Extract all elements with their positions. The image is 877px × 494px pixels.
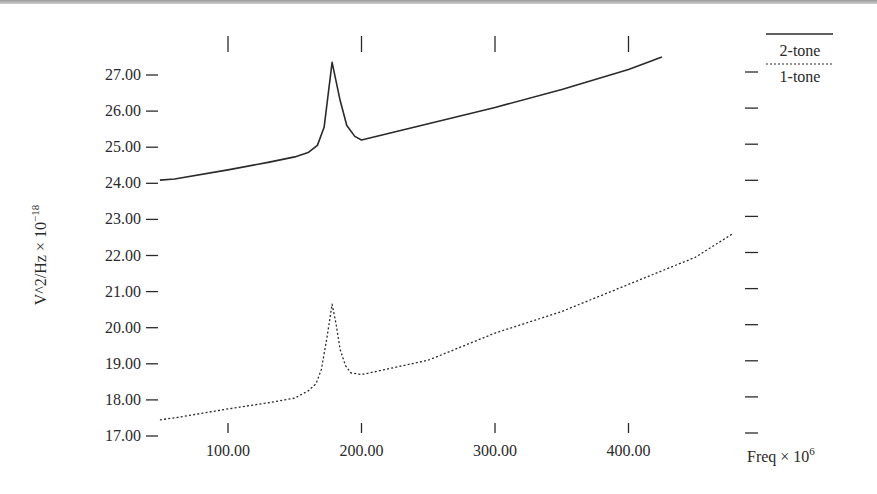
x-axis-title-exponent: 6	[809, 445, 815, 457]
y-tick-label: 21.00	[105, 283, 141, 300]
y-tick-label: 23.00	[105, 210, 141, 227]
x-axis-bottom: 100.00200.00300.00400.00	[206, 423, 651, 459]
plot-area	[160, 57, 733, 420]
y-tick-label: 26.00	[105, 102, 141, 119]
y-tick-label: 19.00	[105, 355, 141, 372]
x-tick-label: 400.00	[607, 442, 651, 459]
y-axis-title-base: V^2/Hz × 10	[32, 222, 49, 305]
y-tick-label: 20.00	[105, 319, 141, 336]
x-tick-label: 100.00	[206, 442, 250, 459]
y-tick-label: 24.00	[105, 174, 141, 191]
x-axis-title-base: Freq × 10	[747, 448, 809, 466]
psd-chart: 17.0018.0019.0020.0021.0022.0023.0024.00…	[0, 0, 877, 494]
y-tick-label: 17.00	[105, 427, 141, 444]
y-axis-right	[745, 72, 758, 433]
y-axis-title-exponent: −18	[29, 204, 41, 222]
x-axis-top	[228, 36, 629, 52]
x-tick-label: 200.00	[340, 442, 384, 459]
y-tick-label: 22.00	[105, 247, 141, 264]
legend-label-2-tone: 2-tone	[780, 42, 821, 59]
x-axis-title: Freq × 106	[747, 445, 815, 466]
legend-label-1-tone: 1-tone	[780, 68, 821, 85]
svg-text:Freq × 106: Freq × 106	[747, 445, 815, 466]
legend: 2-tone 1-tone	[766, 34, 833, 85]
y-tick-label: 18.00	[105, 391, 141, 408]
y-tick-label: 27.00	[105, 66, 141, 83]
y-axis-left: 17.0018.0019.0020.0021.0022.0023.0024.00…	[105, 66, 158, 444]
y-axis-title: V^2/Hz × 10−18	[29, 204, 49, 305]
svg-text:V^2/Hz × 10−18: V^2/Hz × 10−18	[29, 204, 49, 305]
y-tick-label: 25.00	[105, 138, 141, 155]
series-line-1-tone	[160, 234, 733, 420]
series-line-2-tone	[160, 57, 662, 180]
x-tick-label: 300.00	[473, 442, 517, 459]
